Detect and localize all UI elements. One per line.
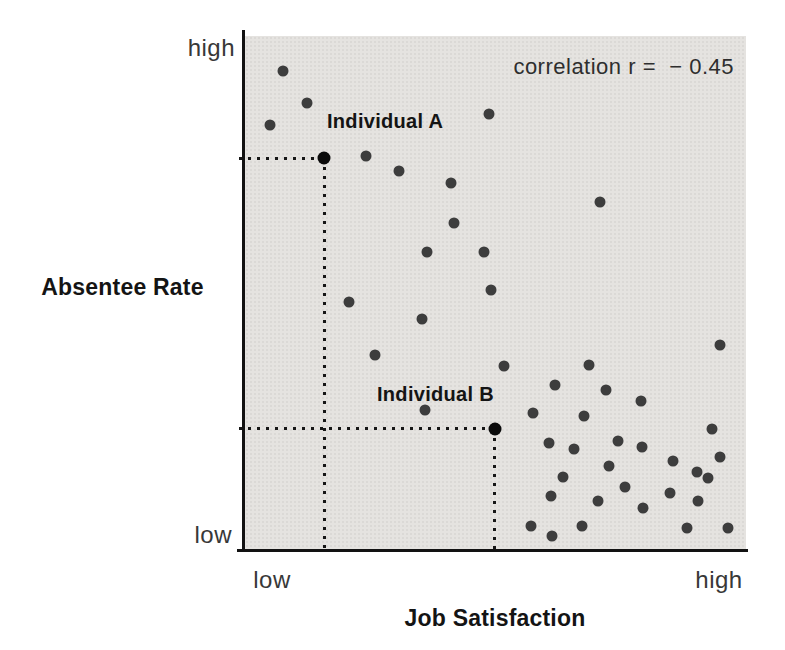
data-point xyxy=(692,496,703,507)
x-axis-line xyxy=(237,549,748,552)
data-point xyxy=(485,285,496,296)
data-point xyxy=(278,65,289,76)
data-point xyxy=(344,297,355,308)
data-point xyxy=(416,314,427,325)
data-point xyxy=(579,410,590,421)
data-point xyxy=(595,197,606,208)
x-axis-tick-low: low xyxy=(244,566,300,594)
data-point xyxy=(393,166,404,177)
y-axis-title: Absentee Rate xyxy=(30,274,215,301)
data-point xyxy=(636,442,647,453)
guide-line-vertical-a xyxy=(323,158,326,549)
x-axis-tick-high: high xyxy=(690,566,748,594)
data-point xyxy=(593,496,604,507)
data-point xyxy=(528,407,539,418)
data-point xyxy=(667,456,678,467)
data-point xyxy=(691,466,702,477)
data-point xyxy=(302,97,313,108)
data-point xyxy=(544,437,555,448)
data-point xyxy=(546,491,557,502)
data-point xyxy=(361,151,372,162)
data-point xyxy=(569,444,580,455)
data-point xyxy=(635,395,646,406)
data-point xyxy=(706,423,717,434)
correlation-annotation: correlation r = − 0.45 xyxy=(434,54,734,80)
data-point xyxy=(526,520,537,531)
individual-a-label: Individual A xyxy=(327,110,443,133)
data-point xyxy=(714,451,725,462)
data-point xyxy=(619,482,630,493)
highlight-point-a xyxy=(318,152,331,165)
data-point xyxy=(445,178,456,189)
data-point xyxy=(265,120,276,131)
data-point xyxy=(547,531,558,542)
data-point xyxy=(499,360,510,371)
data-point xyxy=(419,404,430,415)
y-axis-tick-low: low xyxy=(147,521,232,549)
data-point xyxy=(478,247,489,258)
data-point xyxy=(558,471,569,482)
plot-area xyxy=(245,36,746,549)
data-point xyxy=(421,246,432,257)
data-point xyxy=(601,384,612,395)
highlight-point-b xyxy=(488,422,501,435)
guide-line-vertical-b xyxy=(493,429,496,549)
guide-line-horizontal-a xyxy=(239,157,324,160)
data-point xyxy=(584,359,595,370)
data-point xyxy=(664,488,675,499)
data-point xyxy=(369,350,380,361)
scatter-figure: high low Absentee Rate correlation r = −… xyxy=(0,0,785,650)
data-point xyxy=(714,340,725,351)
y-axis-tick-high: high xyxy=(150,34,235,62)
data-point xyxy=(577,520,588,531)
data-point xyxy=(637,503,648,514)
data-point xyxy=(604,461,615,472)
data-point xyxy=(681,522,692,533)
data-point xyxy=(448,217,459,228)
data-point xyxy=(550,379,561,390)
data-point xyxy=(702,473,713,484)
individual-b-label: Individual B xyxy=(377,383,494,406)
data-point xyxy=(613,435,624,446)
guide-line-horizontal-b xyxy=(239,427,495,430)
data-point xyxy=(483,109,494,120)
x-axis-title: Job Satisfaction xyxy=(345,605,645,632)
data-point xyxy=(722,522,733,533)
